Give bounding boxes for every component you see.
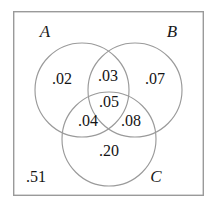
venn-diagram-figure: A B C .02 .03 .07 .05 .04 .08 .20 .51 (0, 0, 217, 208)
set-label-c: C (150, 167, 162, 186)
region-value-a-and-b: .03 (98, 67, 118, 84)
region-value-a-only: .02 (52, 70, 72, 87)
region-value-b-only: .07 (145, 70, 165, 87)
region-value-a-and-b-and-c: .05 (99, 93, 119, 110)
set-label-b: B (167, 22, 178, 41)
region-value-outside: .51 (26, 168, 46, 185)
set-label-a: A (39, 22, 51, 41)
region-value-a-and-c: .04 (78, 112, 98, 129)
region-value-c-only: .20 (99, 142, 119, 159)
venn-diagram-canvas: A B C .02 .03 .07 .05 .04 .08 .20 .51 (0, 0, 217, 208)
region-value-b-and-c: .08 (121, 112, 141, 129)
